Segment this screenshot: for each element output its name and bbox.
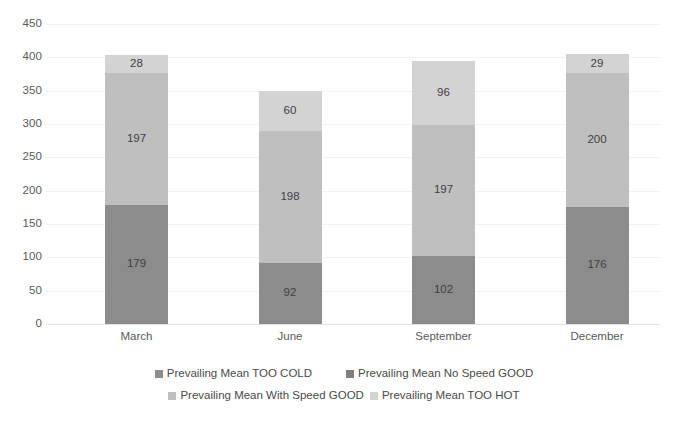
bar-segment[interactable]: 60 (259, 91, 322, 131)
bar-value-label: 102 (412, 284, 475, 296)
bar-segment[interactable]: 179 (105, 205, 168, 324)
legend-swatch-icon (346, 370, 354, 378)
y-tick-label: 450 (2, 18, 42, 30)
bar-value-label: 179 (105, 259, 168, 271)
bar-value-label: 197 (412, 185, 475, 197)
y-tick-label: 0 (2, 318, 42, 330)
plot-area: 2819717960198929619710229200176 (46, 24, 660, 324)
bar-value-label: 200 (566, 134, 629, 146)
bar-stack[interactable]: 6019892 (259, 91, 322, 324)
legend-label: Prevailing Mean No Speed GOOD (358, 368, 533, 380)
legend-swatch-icon (168, 392, 176, 400)
y-tick-label: 50 (2, 285, 42, 297)
bar-value-label: 176 (566, 260, 629, 272)
y-tick-label: 400 (2, 51, 42, 63)
bar-value-label: 96 (412, 87, 475, 99)
bar-value-label: 198 (259, 191, 322, 203)
bar-segment[interactable]: 92 (259, 263, 322, 324)
stacked-bar-chart: 450400350300250200150100500 281971796019… (0, 0, 688, 426)
legend-item[interactable]: Prevailing Mean TOO HOT (370, 390, 520, 402)
legend-item[interactable]: Prevailing Mean With Speed GOOD (168, 390, 363, 402)
bar-segment[interactable]: 102 (412, 256, 475, 324)
bar-segment[interactable]: 200 (566, 73, 629, 206)
bar-value-label: 60 (259, 105, 322, 117)
legend-label: Prevailing Mean With Speed GOOD (180, 390, 363, 402)
gridline (46, 324, 660, 325)
bar-value-label: 28 (105, 58, 168, 70)
y-axis: 450400350300250200150100500 (0, 24, 42, 324)
x-tick-label: June (230, 330, 350, 344)
legend-swatch-icon (155, 370, 163, 378)
bar-value-label: 92 (259, 288, 322, 300)
x-tick-label: September (384, 330, 504, 344)
bar-value-label: 29 (566, 58, 629, 70)
bar-segment[interactable]: 176 (566, 207, 629, 324)
legend-label: Prevailing Mean TOO COLD (167, 368, 312, 380)
y-tick-label: 150 (2, 218, 42, 230)
x-tick-label: March (77, 330, 197, 344)
y-tick-label: 300 (2, 118, 42, 130)
legend-item[interactable]: Prevailing Mean TOO COLD (155, 368, 312, 380)
legend-swatch-icon (370, 392, 378, 400)
legend-item[interactable]: Prevailing Mean No Speed GOOD (346, 368, 533, 380)
legend-row: Prevailing Mean TOO COLDPrevailing Mean … (0, 363, 688, 385)
y-tick-label: 100 (2, 251, 42, 263)
x-axis: MarchJuneSeptemberDecember (46, 330, 660, 352)
bar-stack[interactable]: 29200176 (566, 54, 629, 324)
bar-segment[interactable]: 28 (105, 55, 168, 74)
y-tick-label: 350 (2, 85, 42, 97)
bar-segment[interactable]: 29 (566, 54, 629, 73)
chart-legend: Prevailing Mean TOO COLDPrevailing Mean … (0, 363, 688, 407)
y-tick-label: 200 (2, 185, 42, 197)
y-tick-label: 250 (2, 151, 42, 163)
bar-segment[interactable]: 96 (412, 61, 475, 125)
gridline (46, 24, 660, 25)
bar-stack[interactable]: 96197102 (412, 61, 475, 324)
bar-segment[interactable]: 197 (105, 73, 168, 204)
x-tick-label: December (537, 330, 657, 344)
bar-value-label: 197 (105, 133, 168, 145)
bar-segment[interactable]: 197 (412, 125, 475, 256)
bar-stack[interactable]: 28197179 (105, 55, 168, 324)
legend-label: Prevailing Mean TOO HOT (382, 390, 520, 402)
bar-segment[interactable]: 198 (259, 131, 322, 263)
legend-row: Prevailing Mean With Speed GOODPrevailin… (0, 385, 688, 407)
